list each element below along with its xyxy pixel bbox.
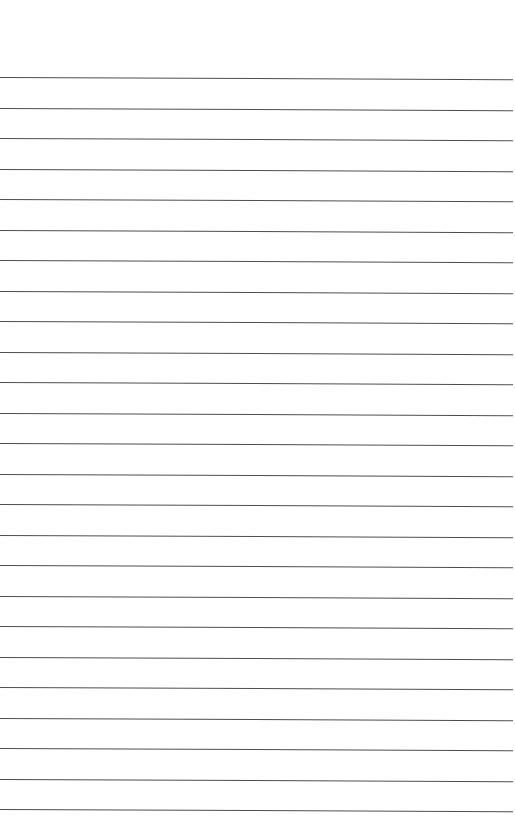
ruled-line	[0, 260, 513, 264]
ruled-line	[0, 443, 513, 447]
ruled-line	[0, 199, 513, 203]
ruled-line	[0, 809, 513, 813]
ruled-line	[0, 718, 513, 722]
ruled-line	[0, 321, 513, 325]
ruled-line	[0, 748, 513, 752]
ruled-line	[0, 230, 513, 234]
ruled-line	[0, 596, 513, 600]
ruled-line	[0, 382, 513, 386]
ruled-line	[0, 291, 513, 295]
ruled-line	[0, 504, 513, 508]
ruled-line	[0, 565, 513, 569]
ruled-line	[0, 474, 513, 478]
ruled-line	[0, 413, 513, 417]
ruled-line	[0, 626, 513, 630]
ruled-line	[0, 657, 513, 661]
ruled-line	[0, 687, 513, 691]
ruled-line	[0, 352, 513, 356]
ruled-line	[0, 77, 513, 81]
ruled-line	[0, 535, 513, 539]
ruled-line	[0, 169, 513, 173]
ruled-paper-page	[0, 0, 515, 832]
ruled-line	[0, 779, 513, 783]
ruled-line	[0, 108, 513, 112]
ruled-line	[0, 138, 513, 142]
